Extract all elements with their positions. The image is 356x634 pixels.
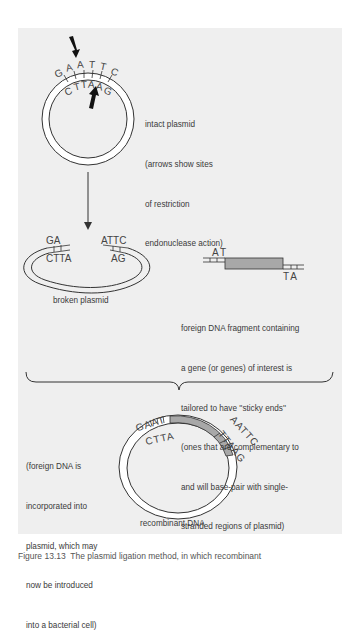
base-letter: A [65,61,74,73]
label-line: a gene (or genes) of interest is [181,362,299,375]
sticky-end-text: GA [46,235,61,246]
cut-arrow-icon [69,36,80,58]
label-line: now be introduced [26,579,97,592]
label-line: intact plasmid [145,118,223,131]
recombinant-note: (foreign DNA is incorporated into plasmi… [26,434,97,634]
base-letter: T [99,61,107,73]
label-line: (arrows show sites [145,158,223,171]
label-line: tailored to have ''sticky ends'' [181,402,299,415]
sticky-end-text: AG [111,253,126,264]
label-line: (foreign DNA is [26,460,97,473]
foreign-fragment-label: foreign DNA fragment containing a gene (… [181,296,299,547]
base-letter: G [53,66,65,79]
sticky-end-text: CTTA [46,253,72,264]
recombinant-label: recombinant DNA [140,517,205,530]
label-line: of restriction [145,198,223,211]
intact-plasmid-label: intact plasmid (arrows show sites of res… [145,92,223,264]
label-line: (ones that are complementary to [181,441,299,454]
label-line: into a bacterial cell) [26,619,97,632]
sticky-end-text: TA [283,271,299,282]
label-line: incorporated into [26,500,97,513]
broken-plasmid: GA CTTA ATTC AG [24,235,150,293]
base-letter: T [89,59,96,70]
label-line: endonuclease action) [145,237,223,250]
figure-caption: Figure 13.13 The plasmid ligation method… [18,551,261,561]
sticky-end-text: ATTC [101,235,126,246]
process-arrow [84,172,92,230]
base-letter: A [76,59,84,71]
broken-plasmid-label: broken plasmid [53,294,109,307]
label-line: and will base-pair with single- [181,481,299,494]
label-line: foreign DNA fragment containing [181,322,299,335]
base-letter: T [80,79,87,90]
intact-plasmid: G A A T T C C T T A A G [42,36,134,165]
